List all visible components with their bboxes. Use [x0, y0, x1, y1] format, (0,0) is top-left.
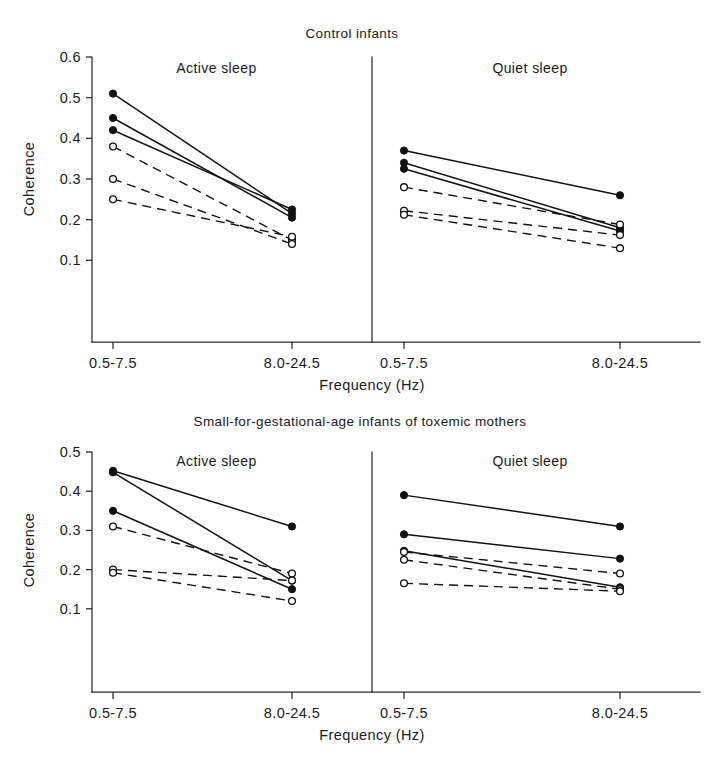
panel-title-sga-active: Active sleep: [176, 453, 256, 469]
x-tick-label: 8.0-24.5: [264, 355, 320, 371]
y-tick-label: 0.4: [60, 130, 81, 146]
series-group-control-quiet: [400, 147, 623, 252]
y-axis-label: Coherence: [21, 142, 37, 217]
panel-title-control-quiet: Quiet sleep: [492, 60, 567, 76]
figure-title-control: Control infants: [305, 26, 398, 41]
panel-title-sga-quiet: Quiet sleep: [492, 453, 567, 469]
series-line-filled-2: [113, 472, 292, 580]
chart-control-infants: Control infants0.60.50.40.30.20.1Coheren…: [0, 0, 714, 400]
data-point-open: [401, 580, 408, 587]
panel-title-control-active: Active sleep: [176, 60, 256, 76]
chart-sga-infants: Small-for-gestational-age infants of tox…: [0, 400, 714, 740]
series-line-open-3: [113, 199, 292, 236]
series-group-sga-active: [109, 467, 295, 604]
data-point-open: [289, 570, 296, 577]
series-line-filled-3: [404, 551, 620, 587]
series-line-open-2: [113, 179, 292, 244]
plot-control-infants: Control infants0.60.50.40.30.20.1Coheren…: [0, 0, 714, 400]
data-point-open: [617, 245, 624, 252]
y-tick-label: 0.6: [60, 49, 81, 65]
y-tick-label: 0.2: [60, 562, 81, 578]
data-point-open: [401, 184, 408, 191]
y-tick-label: 0.3: [60, 522, 81, 538]
data-point-filled: [109, 507, 116, 514]
data-point-filled: [109, 114, 116, 121]
y-axis-label: Coherence: [21, 513, 37, 588]
data-point-filled: [288, 206, 295, 213]
figure-caption: [0, 748, 714, 777]
data-point-open: [289, 233, 296, 240]
y-tick-label: 0.1: [60, 601, 81, 617]
series-line-filled-1: [404, 495, 620, 526]
data-point-open: [617, 570, 624, 577]
data-point-open: [110, 143, 117, 150]
series-line-filled-3: [113, 130, 292, 209]
y-tick-label: 0.2: [60, 212, 81, 228]
x-tick-label: 8.0-24.5: [592, 705, 648, 721]
data-point-filled: [288, 586, 295, 593]
y-tick-label: 0.4: [60, 483, 81, 499]
y-tick-label: 0.3: [60, 171, 81, 187]
data-point-open: [401, 211, 408, 218]
data-point-filled: [109, 469, 116, 476]
series-line-open-1: [113, 526, 292, 573]
data-point-filled: [109, 127, 116, 134]
data-point-open: [289, 577, 296, 584]
data-point-open: [617, 232, 624, 239]
data-point-filled: [616, 523, 623, 530]
series-line-filled-1: [113, 94, 292, 214]
x-tick-label: 8.0-24.5: [264, 705, 320, 721]
data-point-open: [289, 598, 296, 605]
x-axis-label: Frequency (Hz): [319, 377, 425, 393]
data-point-open: [401, 556, 408, 563]
x-tick-label: 0.5-7.5: [380, 705, 428, 721]
data-point-open: [401, 549, 408, 556]
data-point-filled: [400, 492, 407, 499]
series-line-filled-3: [404, 169, 620, 231]
data-point-open: [110, 196, 117, 203]
data-point-filled: [288, 523, 295, 530]
data-point-open: [110, 176, 117, 183]
x-tick-label: 0.5-7.5: [89, 705, 137, 721]
data-point-open: [617, 588, 624, 595]
data-point-filled: [109, 90, 116, 97]
data-point-open: [110, 569, 117, 576]
data-point-filled: [288, 214, 295, 221]
y-tick-label: 0.5: [60, 444, 81, 460]
x-tick-label: 0.5-7.5: [380, 355, 428, 371]
data-point-filled: [616, 192, 623, 199]
series-line-open-2: [113, 570, 292, 581]
x-tick-label: 0.5-7.5: [89, 355, 137, 371]
data-point-open: [110, 523, 117, 530]
series-group-control-active: [109, 90, 295, 247]
data-point-filled: [400, 165, 407, 172]
data-point-filled: [400, 531, 407, 538]
data-point-filled: [400, 147, 407, 154]
x-tick-label: 8.0-24.5: [592, 355, 648, 371]
figure-title-sga: Small-for-gestational-age infants of tox…: [194, 414, 527, 429]
data-point-open: [289, 241, 296, 248]
y-tick-label: 0.1: [60, 252, 81, 268]
series-line-filled-1: [113, 471, 292, 527]
series-line-filled-2: [113, 118, 292, 218]
series-line-open-1: [113, 146, 292, 240]
y-tick-label: 0.5: [60, 90, 81, 106]
data-point-filled: [616, 555, 623, 562]
series-group-sga-quiet: [400, 492, 623, 595]
data-point-open: [617, 221, 624, 228]
x-axis-label: Frequency (Hz): [319, 727, 425, 743]
series-line-open-1: [404, 187, 620, 224]
figure-root: Control infants0.60.50.40.30.20.1Coheren…: [0, 0, 714, 777]
plot-sga-infants: Small-for-gestational-age infants of tox…: [0, 400, 714, 740]
